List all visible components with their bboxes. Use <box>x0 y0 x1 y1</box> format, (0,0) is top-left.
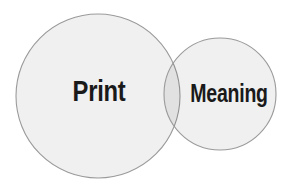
print-label-text: Print <box>73 77 126 106</box>
print-circle-label: Print <box>67 77 132 106</box>
venn-diagram: Print Meaning <box>0 0 292 185</box>
meaning-label-text: Meaning <box>190 80 268 106</box>
meaning-circle-label: Meaning <box>177 80 280 106</box>
